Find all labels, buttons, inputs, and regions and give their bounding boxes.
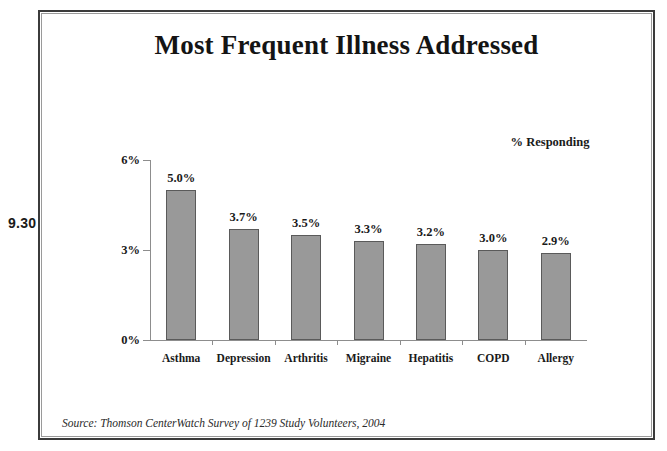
bar-asthma xyxy=(166,190,196,340)
y-axis-label: 6% xyxy=(121,153,140,168)
x-axis-tick xyxy=(525,340,526,345)
bar-arthritis xyxy=(291,235,321,340)
bar-hepatitis xyxy=(416,244,446,340)
bar-value-label: 3.3% xyxy=(354,222,382,237)
plot-area: 0%3%6% 5.0%Asthma3.7%Depression3.5%Arthr… xyxy=(150,160,587,340)
x-axis-label-migraine: Migraine xyxy=(346,352,391,364)
bar-value-label: 3.0% xyxy=(479,231,507,246)
bar-value-label: 3.5% xyxy=(292,216,320,231)
y-axis-tick xyxy=(143,250,150,251)
chart-title: Most Frequent Illness Addressed xyxy=(40,30,653,61)
x-axis-tick xyxy=(275,340,276,345)
x-axis-tick xyxy=(462,340,463,345)
x-axis-tick xyxy=(400,340,401,345)
y-axis-label: 3% xyxy=(121,243,140,258)
source-note: Source: Thomson CenterWatch Survey of 12… xyxy=(62,417,385,429)
bar-copd xyxy=(478,250,508,340)
bar-value-label: 5.0% xyxy=(167,171,195,186)
x-axis-label-asthma: Asthma xyxy=(162,352,200,364)
x-axis-label-copd: COPD xyxy=(477,352,510,364)
y-axis-tick xyxy=(143,340,150,341)
x-axis-label-arthritis: Arthritis xyxy=(284,352,327,364)
bar-migraine xyxy=(354,241,384,340)
figure-number: 9.30 xyxy=(8,215,36,231)
bar-value-label: 3.7% xyxy=(230,210,258,225)
y-axis-tick xyxy=(143,160,150,161)
bar-value-label: 2.9% xyxy=(542,234,570,249)
y-axis-line xyxy=(150,160,151,341)
x-axis-label-hepatitis: Hepatitis xyxy=(409,352,454,364)
legend-note: % Responding xyxy=(460,135,640,150)
x-axis-tick xyxy=(337,340,338,345)
chart-frame: Most Frequent Illness Addressed % Respon… xyxy=(38,10,655,440)
x-axis-label-depression: Depression xyxy=(217,352,271,364)
x-axis-line xyxy=(150,340,587,341)
x-axis-tick xyxy=(212,340,213,345)
x-axis-label-allergy: Allergy xyxy=(538,352,574,364)
y-axis-label: 0% xyxy=(121,333,140,348)
bar-value-label: 3.2% xyxy=(417,225,445,240)
bar-depression xyxy=(229,229,259,340)
bar-allergy xyxy=(541,253,571,340)
